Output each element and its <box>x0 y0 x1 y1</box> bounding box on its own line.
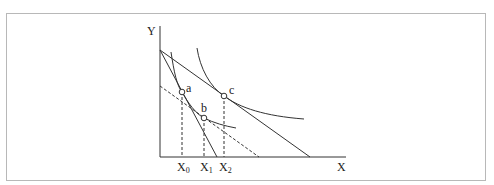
indifference-curve-upper <box>197 48 304 119</box>
y-axis-label: Y <box>147 24 156 38</box>
point-b-marker <box>201 115 207 121</box>
point-c-marker <box>221 93 227 99</box>
x-axis-label: X <box>337 160 346 174</box>
tick-x1: X1 <box>200 160 213 175</box>
tick-x2: X2 <box>219 160 232 175</box>
tick-x0: X0 <box>177 160 190 175</box>
point-a-label: a <box>186 81 192 95</box>
point-a-marker <box>179 89 185 95</box>
point-b-label: b <box>201 101 207 115</box>
indifference-curve-diagram: a b c Y X X0 X1 X2 <box>0 0 494 185</box>
compensated-budget-line-dashed <box>160 86 259 157</box>
point-c-label: c <box>229 83 234 97</box>
